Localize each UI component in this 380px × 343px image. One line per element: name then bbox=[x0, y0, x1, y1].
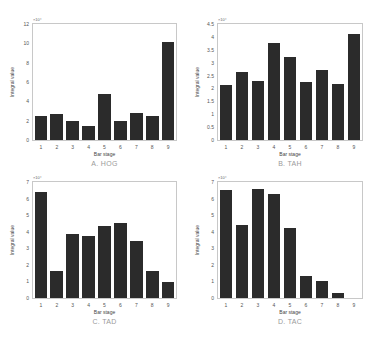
x-tick-label: 1 bbox=[36, 144, 46, 150]
x-tick-label: 5 bbox=[285, 302, 295, 308]
bar bbox=[66, 121, 79, 140]
x-tick-label: 4 bbox=[84, 144, 94, 150]
x-tick-label: 3 bbox=[68, 302, 78, 308]
x-tick-label: 8 bbox=[147, 144, 157, 150]
x-tick-label: 2 bbox=[237, 144, 247, 150]
bar bbox=[162, 42, 175, 140]
bar bbox=[146, 116, 159, 140]
x-tick-label: 8 bbox=[333, 302, 343, 308]
bar bbox=[300, 82, 313, 140]
bar bbox=[98, 226, 111, 298]
bar bbox=[268, 194, 281, 298]
y-tick-label: 0 bbox=[15, 295, 29, 301]
bar bbox=[236, 72, 249, 140]
x-axis-label: Bar stage bbox=[260, 151, 320, 157]
y-tick-label: 12 bbox=[15, 21, 29, 27]
x-tick-label: 7 bbox=[131, 144, 141, 150]
bar bbox=[66, 234, 79, 298]
y-tick-label: 0.5 bbox=[200, 124, 214, 130]
y-tick-label: 0 bbox=[200, 295, 214, 301]
bar bbox=[50, 271, 63, 298]
y-tick-label: 7 bbox=[15, 179, 29, 185]
y-tick-label: 4 bbox=[200, 34, 214, 40]
bar bbox=[284, 57, 297, 140]
y-exponent-label: ×10⁴ bbox=[218, 175, 227, 180]
bar bbox=[114, 223, 127, 298]
y-tick-label: 6 bbox=[15, 196, 29, 202]
y-exponent-label: ×10⁴ bbox=[33, 17, 42, 22]
y-exponent-label: ×10⁴ bbox=[218, 17, 227, 22]
bar bbox=[130, 113, 143, 140]
y-exponent-label: ×10⁴ bbox=[33, 175, 42, 180]
bar bbox=[236, 225, 249, 298]
plot-area bbox=[32, 23, 177, 141]
y-tick-label: 1 bbox=[200, 278, 214, 284]
bar bbox=[35, 192, 48, 298]
plot-area bbox=[217, 181, 363, 299]
bar bbox=[220, 190, 233, 298]
y-tick-label: 0 bbox=[15, 137, 29, 143]
x-tick-label: 6 bbox=[115, 144, 125, 150]
x-tick-label: 8 bbox=[333, 144, 343, 150]
bar bbox=[114, 121, 127, 140]
bar bbox=[50, 114, 63, 140]
chart-caption: D. TAC bbox=[250, 318, 330, 325]
y-axis-label: Integral value bbox=[9, 210, 15, 270]
y-tick-label: 10 bbox=[15, 40, 29, 46]
y-axis-label: Integral value bbox=[194, 210, 200, 270]
y-tick-label: 3 bbox=[15, 245, 29, 251]
bar bbox=[82, 126, 95, 140]
x-tick-label: 2 bbox=[52, 144, 62, 150]
bar bbox=[82, 236, 95, 298]
x-tick-label: 6 bbox=[115, 302, 125, 308]
x-tick-label: 6 bbox=[301, 144, 311, 150]
bar bbox=[220, 85, 233, 140]
y-tick-label: 2.5 bbox=[200, 73, 214, 79]
plot-area bbox=[32, 181, 177, 299]
x-tick-label: 9 bbox=[163, 144, 173, 150]
x-tick-label: 9 bbox=[163, 302, 173, 308]
y-tick-label: 4 bbox=[15, 98, 29, 104]
bar bbox=[284, 228, 297, 298]
bar bbox=[332, 293, 345, 298]
y-tick-label: 1.5 bbox=[200, 98, 214, 104]
bar bbox=[35, 116, 48, 140]
x-tick-label: 5 bbox=[100, 302, 110, 308]
y-tick-label: 1 bbox=[15, 278, 29, 284]
x-tick-label: 3 bbox=[68, 144, 78, 150]
x-tick-label: 1 bbox=[36, 302, 46, 308]
chart-caption: A. HOG bbox=[65, 160, 145, 167]
y-tick-label: 2 bbox=[15, 262, 29, 268]
bar bbox=[316, 70, 329, 140]
y-tick-label: 2 bbox=[200, 262, 214, 268]
y-tick-label: 3 bbox=[200, 245, 214, 251]
y-tick-label: 2 bbox=[200, 85, 214, 91]
y-tick-label: 3.5 bbox=[200, 47, 214, 53]
y-tick-label: 5 bbox=[15, 212, 29, 218]
y-tick-label: 7 bbox=[200, 179, 214, 185]
x-tick-label: 5 bbox=[285, 144, 295, 150]
x-tick-label: 3 bbox=[253, 302, 263, 308]
x-tick-label: 7 bbox=[317, 302, 327, 308]
y-tick-label: 8 bbox=[15, 60, 29, 66]
y-tick-label: 4.5 bbox=[200, 21, 214, 27]
plot-area bbox=[217, 23, 363, 141]
y-tick-label: 2 bbox=[15, 118, 29, 124]
y-tick-label: 0 bbox=[200, 137, 214, 143]
y-tick-label: 5 bbox=[200, 212, 214, 218]
x-tick-label: 4 bbox=[84, 302, 94, 308]
y-tick-label: 4 bbox=[15, 229, 29, 235]
x-tick-label: 4 bbox=[269, 144, 279, 150]
bar bbox=[252, 81, 265, 140]
bar bbox=[252, 189, 265, 298]
y-axis-label: Integral value bbox=[9, 52, 15, 112]
bar bbox=[98, 94, 111, 140]
x-tick-label: 2 bbox=[52, 302, 62, 308]
x-axis-label: Bar stage bbox=[75, 151, 135, 157]
x-tick-label: 9 bbox=[349, 302, 359, 308]
x-tick-label: 1 bbox=[221, 144, 231, 150]
bar bbox=[348, 34, 361, 140]
x-tick-label: 3 bbox=[253, 144, 263, 150]
x-tick-label: 8 bbox=[147, 302, 157, 308]
x-tick-label: 2 bbox=[237, 302, 247, 308]
